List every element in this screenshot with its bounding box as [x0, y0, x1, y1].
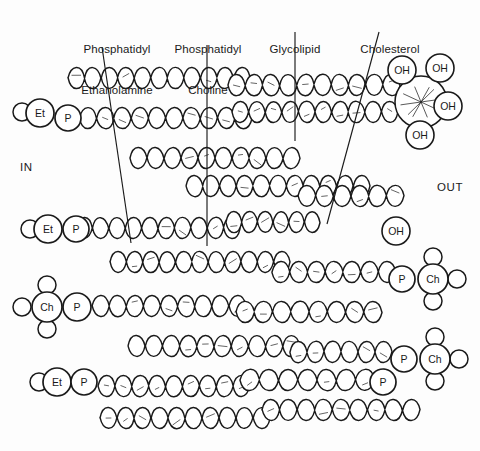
tail-outline: [92, 295, 246, 316]
tail-kink-mark: [279, 276, 283, 277]
head-group-label-p: P: [80, 376, 87, 388]
tail-outline: [262, 399, 420, 420]
hydroxyl-group-4: OH: [406, 121, 434, 149]
lipid-tail: [236, 301, 382, 322]
head-group-label-ch: Ch: [40, 301, 54, 313]
tail-outline: [110, 251, 290, 272]
head-group-pe-head-3-phosphate: P: [71, 369, 97, 395]
tail-outline: [76, 217, 240, 238]
tail-outline: [232, 101, 398, 122]
tail-kink-mark: [238, 154, 242, 155]
head-group-label-p: P: [398, 273, 405, 285]
lipid-tail: [290, 341, 392, 362]
lipid-tail: [128, 335, 300, 356]
callout-label-cholesterol: Cholesterol: [360, 16, 419, 84]
hydroxyl-group-2: OH: [426, 54, 454, 82]
lipid-tail: [110, 251, 290, 272]
hydroxyl-label: OH: [412, 129, 428, 141]
orientation-label-out: OUT: [437, 181, 463, 193]
lipid-tail: [130, 147, 300, 168]
hydroxyl-group-3: OH: [434, 92, 462, 120]
head-group-pe-head-2: EtP: [21, 215, 89, 243]
head-group-pe-head-1: EtP: [13, 99, 81, 131]
lipid-tail: [98, 375, 250, 396]
callout-label-phosphatidyl-ethanolamine: Phosphatidyl Ethanolamine: [81, 16, 153, 124]
head-group-label-p: P: [73, 301, 80, 313]
head-group-label-p: P: [72, 223, 79, 235]
callout-line-1: Phosphatidyl: [81, 43, 153, 57]
lipid-tail: [272, 261, 396, 282]
head-group-label-ch: Ch: [428, 353, 442, 365]
callout-line-1: Phosphatidyl: [174, 43, 241, 57]
tail-outline: [130, 147, 300, 168]
callout-label-phosphatidyl-choline: Phosphatidyl Choline: [174, 16, 241, 124]
head-group-label-p: P: [64, 112, 71, 124]
head-group-pc-head-left-1: ChP: [13, 276, 91, 338]
hydroxyl-group-5: OH: [382, 217, 410, 245]
head-group-label-et: Et: [35, 107, 45, 119]
tail-outline: [236, 301, 382, 322]
hydroxyl-label: OH: [440, 100, 456, 112]
membrane-diagram: OHOHOHOHOHEtPEtPChPEtPPChPChP Phosphatid…: [0, 0, 480, 451]
tail-kink-mark: [322, 196, 328, 197]
tail-kink-mark: [251, 83, 257, 84]
choline-methyl-3: [450, 350, 468, 368]
lipid-tail: [262, 399, 420, 420]
choline-methyl-3: [448, 270, 466, 288]
callout-line-2: Ethanolamine: [81, 84, 153, 98]
lipid-tail: [232, 101, 398, 122]
tail-kink-mark: [324, 382, 329, 383]
choline-methyl-3: [13, 298, 31, 316]
head-group-label-p: P: [400, 353, 407, 365]
callout-line-2: Choline: [174, 84, 241, 98]
tail-outline: [100, 408, 270, 429]
lipid-tail: [100, 408, 270, 429]
tail-outline: [290, 341, 392, 362]
head-group-label-et: Et: [43, 223, 53, 235]
lipid-tail: [92, 295, 246, 316]
lipid-tail: [76, 217, 240, 238]
head-group-pc-head-right-1: PCh: [389, 248, 466, 310]
tail-outline: [128, 335, 300, 356]
callout-line-1: Cholesterol: [360, 43, 419, 57]
head-group-pc-head-right-2: PCh: [391, 328, 468, 390]
callout-line-1: Glycolipid: [270, 43, 321, 57]
hydroxyl-label: OH: [432, 62, 448, 74]
hydroxyl-label: OH: [388, 225, 404, 237]
head-group-label-et: Et: [52, 376, 62, 388]
head-group-label-ch: Ch: [426, 273, 440, 285]
head-group-label-p: P: [379, 376, 386, 388]
callout-label-glycolipid: Glycolipid: [270, 16, 321, 84]
orientation-label-in: IN: [20, 161, 33, 173]
